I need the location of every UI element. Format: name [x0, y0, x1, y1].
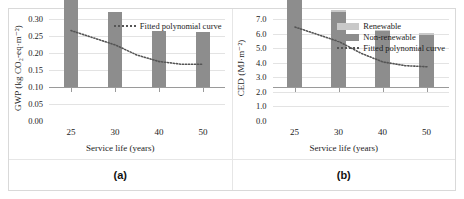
x-tick-label: 25: [290, 127, 299, 137]
legend-dotted-line-icon: [337, 45, 359, 52]
legend-label: Renewable: [363, 21, 401, 31]
x-axis-tick-labels-b: 25304050: [233, 127, 456, 139]
y-tick-label: 7.0: [256, 15, 267, 24]
legend-item: Renewable: [337, 21, 445, 31]
caption-row: (a) (b): [9, 159, 455, 190]
fitted-curve-a: [49, 19, 225, 121]
legend-a: Fitted polynomial curve: [114, 21, 222, 31]
legend-swatch-icon: [337, 34, 359, 41]
x-axis-title-b: Service life (years): [233, 143, 456, 153]
legend-item: Fitted polynomial curve: [337, 43, 445, 53]
x-tick-label: 40: [155, 127, 164, 137]
chart-panel-a: GWP (kg CO₂-eq·m⁻²) 0.000.050.100.150.20…: [9, 9, 233, 159]
x-tick-label: 30: [334, 127, 343, 137]
y-tick-label: 0.0: [256, 117, 267, 126]
legend-label: Fitted polynomial curve: [363, 43, 445, 53]
legend-swatch-icon: [337, 23, 359, 30]
y-tick-label: 0.15: [28, 66, 43, 75]
y-tick-label: 0.00: [28, 117, 43, 126]
caption-cell-a: (a): [9, 160, 233, 190]
legend-b: RenewableNon-renewableFitted polynomial …: [337, 21, 445, 53]
panels-row: GWP (kg CO₂-eq·m⁻²) 0.000.050.100.150.20…: [9, 9, 455, 159]
x-tick-label: 25: [67, 127, 76, 137]
y-tick-label: 0.30: [28, 15, 43, 24]
y-tick-label: 0.10: [28, 83, 43, 92]
y-tick-label: 6.0: [256, 29, 267, 38]
x-axis-title-a: Service life (years): [9, 143, 232, 153]
figure-container: GWP (kg CO₂-eq·m⁻²) 0.000.050.100.150.20…: [8, 8, 456, 191]
y-tick-label: 5.0: [256, 44, 267, 53]
x-tick-label: 50: [422, 127, 431, 137]
x-axis-tick-labels-a: 25304050: [9, 127, 232, 139]
y-tick-label: 2.0: [256, 88, 267, 97]
legend-item: Fitted polynomial curve: [114, 21, 222, 31]
y-tick-label: 3.0: [256, 73, 267, 82]
caption-cell-b: (b): [233, 160, 456, 190]
y-tick-label: 0.20: [28, 49, 43, 58]
chart-panel-b: CED (MJ·m⁻²) 0.01.02.03.04.05.06.07.0 25…: [233, 9, 456, 159]
x-axis-ticks-b: [273, 88, 449, 92]
y-tick-label: 4.0: [256, 58, 267, 67]
y-tick-label: 1.0: [256, 102, 267, 111]
legend-item: Non-renewable: [337, 32, 445, 42]
x-axis-ticks-a: [49, 88, 225, 92]
legend-label: Non-renewable: [363, 32, 415, 42]
x-tick-label: 30: [111, 127, 120, 137]
panel-caption-a: (a): [114, 169, 127, 181]
x-tick-label: 50: [199, 127, 208, 137]
legend-dotted-line-icon: [114, 23, 136, 30]
y-tick-label: 0.05: [28, 100, 43, 109]
panel-caption-b: (b): [337, 169, 351, 181]
y-axis-tick-labels-b: 0.01.02.03.04.05.06.07.0: [233, 19, 267, 121]
y-tick-label: 0.25: [28, 32, 43, 41]
x-tick-label: 40: [378, 127, 387, 137]
legend-label: Fitted polynomial curve: [140, 21, 222, 31]
y-axis-tick-labels-a: 0.000.050.100.150.200.250.30: [9, 19, 43, 121]
